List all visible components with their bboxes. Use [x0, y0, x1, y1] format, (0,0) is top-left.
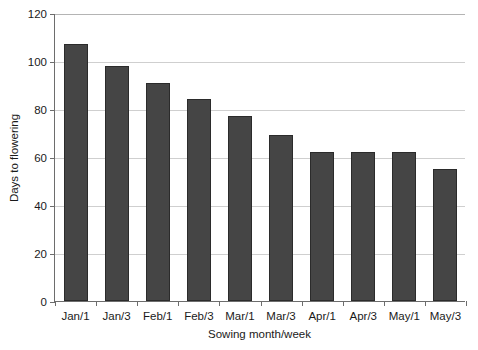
- x-axis-tick-label: Feb/1: [143, 310, 172, 322]
- bar-slot: [261, 14, 302, 301]
- x-axis-tick: [466, 301, 467, 306]
- bar-slot: [178, 14, 219, 301]
- x-axis-tick: [302, 301, 303, 306]
- bar: [392, 152, 416, 301]
- bar: [146, 83, 170, 301]
- y-axis-tick-label: 100: [28, 56, 47, 68]
- y-axis-tick-label: 60: [34, 152, 47, 164]
- x-axis-tick: [55, 301, 56, 306]
- bar: [269, 135, 293, 301]
- bar-slot: [219, 14, 260, 301]
- y-axis-tick-label: 0: [41, 296, 47, 308]
- x-axis-tick: [425, 301, 426, 306]
- x-axis-tick-label: May/3: [430, 310, 461, 322]
- y-axis-tick-label: 80: [34, 104, 47, 116]
- bar-series: [55, 14, 465, 301]
- x-axis-tick-label: Jan/1: [61, 310, 89, 322]
- x-axis-tick: [343, 301, 344, 306]
- bar: [105, 66, 129, 301]
- y-axis-tick-label: 20: [34, 248, 47, 260]
- x-axis-tick: [137, 301, 138, 306]
- x-axis-tick-label: Apr/1: [308, 310, 336, 322]
- bar-slot: [137, 14, 178, 301]
- bar: [228, 116, 252, 301]
- bar-chart-figure: Days to flowering 020406080100120 Jan/1J…: [0, 0, 478, 350]
- bar-slot: [343, 14, 384, 301]
- bar: [187, 99, 211, 301]
- y-axis-tick-label: 120: [28, 8, 47, 20]
- x-axis-tick-label: Mar/1: [225, 310, 254, 322]
- bar: [351, 152, 375, 301]
- x-axis-tick: [219, 301, 220, 306]
- bar: [310, 152, 334, 301]
- x-axis-tick: [261, 301, 262, 306]
- bar-slot: [384, 14, 425, 301]
- x-axis-title: Sowing month/week: [54, 328, 465, 340]
- x-axis-tick-label: Apr/3: [350, 310, 378, 322]
- y-axis-title: Days to flowering: [6, 14, 22, 302]
- x-axis-tick-label: Mar/3: [266, 310, 295, 322]
- y-axis-tick-label: 40: [34, 200, 47, 212]
- x-axis-tick-label: May/1: [389, 310, 420, 322]
- x-axis-tick: [178, 301, 179, 306]
- x-axis-tick: [384, 301, 385, 306]
- bar-slot: [425, 14, 466, 301]
- bar-slot: [302, 14, 343, 301]
- bar-slot: [55, 14, 96, 301]
- bar: [433, 169, 457, 301]
- bar-slot: [96, 14, 137, 301]
- plot-area: 020406080100120 Jan/1Jan/3Feb/1Feb/3Mar/…: [54, 14, 465, 302]
- y-axis-title-text: Days to flowering: [8, 114, 20, 202]
- x-axis-tick-label: Feb/3: [184, 310, 213, 322]
- x-axis-tick: [96, 301, 97, 306]
- x-axis-tick-label: Jan/3: [103, 310, 131, 322]
- bar: [64, 44, 88, 301]
